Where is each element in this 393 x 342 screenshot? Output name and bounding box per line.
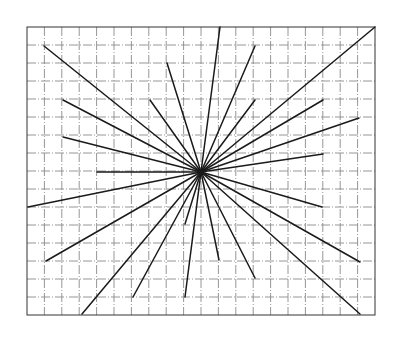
ray [28, 172, 201, 207]
ray [185, 172, 201, 297]
ray [201, 172, 322, 207]
center-hub [198, 169, 204, 175]
diagram-canvas [0, 0, 393, 342]
ray [201, 172, 360, 262]
ray [63, 100, 201, 172]
ray [46, 172, 201, 261]
starburst-diagram [0, 0, 393, 342]
